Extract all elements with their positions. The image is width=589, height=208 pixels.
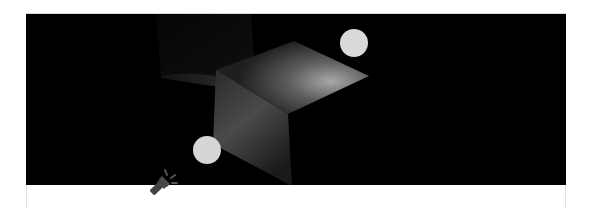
scene-render <box>26 14 566 185</box>
3d-scene-canvas[interactable] <box>26 13 566 185</box>
light-sphere-top-right[interactable] <box>340 29 368 57</box>
flashlight-icon[interactable] <box>150 167 180 197</box>
card-body <box>27 185 565 208</box>
page <box>0 0 589 208</box>
light-sphere-bottom-left[interactable] <box>193 136 221 164</box>
